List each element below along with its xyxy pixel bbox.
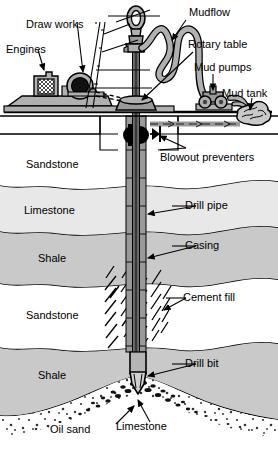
label-stratum-shale-1: Shale	[38, 253, 66, 264]
label-casing: Casing	[185, 240, 219, 251]
label-drill-pipe: Drill pipe	[185, 200, 228, 211]
label-engines: Engines	[6, 44, 46, 55]
label-limestone-bottom: Limestone	[116, 421, 167, 432]
label-stratum-shale-2: Shale	[38, 370, 66, 381]
label-drill-bit: Drill bit	[185, 358, 219, 369]
label-stratum-sandstone-2: Sandstone	[26, 310, 79, 321]
label-stratum-limestone: Limestone	[24, 205, 75, 216]
label-stratum-sandstone-1: Sandstone	[26, 159, 79, 170]
label-draw-works: Draw works	[26, 19, 83, 30]
label-mud-pumps: Mud pumps	[194, 62, 251, 73]
label-cement-fill: Cement fill	[183, 292, 235, 303]
label-rotary-table: Rotary table	[188, 39, 247, 50]
label-blowout-preventers: Blowout preventers	[160, 152, 254, 163]
label-mud-tank: Mud tank	[222, 88, 267, 99]
label-mudflow: Mudflow	[189, 7, 230, 18]
label-oil-sand: Oil sand	[50, 424, 90, 435]
drilling-rig-diagram: Draw works Engines Mudflow Rotary table …	[0, 0, 278, 457]
